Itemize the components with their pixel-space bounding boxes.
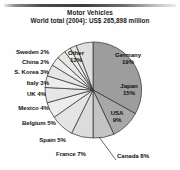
slice-label-other-name: Other: [68, 49, 84, 56]
slice-label-spain: Spain 5%: [0, 136, 66, 143]
slice-label-japan: Japan 15%: [112, 82, 146, 96]
slice-label-mexico: Mexico 4%: [0, 104, 49, 111]
slice-label-sweden: Sweden 2%: [0, 48, 49, 55]
header-rule: [4, 4, 176, 7]
slice-label-uk: UK 4%: [0, 90, 46, 97]
slice-label-italy: Italy 3%: [0, 79, 49, 86]
slice-label-japan-pct: 15%: [123, 89, 135, 96]
slice-label-germany: Germany 19%: [106, 51, 150, 65]
slice-label-canada: Canada 8%: [117, 152, 177, 159]
slice-label-usa: USA 9%: [103, 109, 131, 123]
slice-label-japan-name: Japan: [120, 82, 137, 89]
leader-line-canada: [99, 137, 116, 160]
pie-chart-figure: Motor Vehicles World total (2004): US$ 2…: [0, 0, 180, 170]
slice-label-belgium: Belgium 5%: [0, 119, 56, 126]
slice-label-france: France 7%: [0, 150, 86, 157]
slice-label-germany-name: Germany: [115, 51, 141, 58]
slice-label-germany-pct: 19%: [122, 58, 134, 65]
chart-plot-area: Germany 19% Japan 15% USA 9% Other 13% S…: [0, 24, 180, 170]
slice-label-usa-pct: 9%: [113, 116, 122, 123]
pie-leader-lines: [99, 137, 116, 160]
slice-label-other-pct: 13%: [70, 56, 82, 63]
chart-title: Motor Vehicles: [0, 9, 180, 17]
pie-svg: [0, 24, 180, 170]
slice-label-s-korea: S. Korea 3%: [0, 68, 49, 75]
slice-label-other: Other 13%: [62, 49, 90, 63]
slice-label-usa-name: USA: [111, 109, 124, 116]
slice-label-china: China 2%: [0, 58, 49, 65]
